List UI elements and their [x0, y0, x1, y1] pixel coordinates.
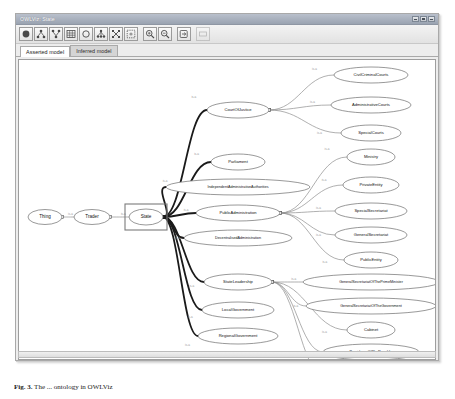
node-label: Trader	[85, 214, 99, 219]
node-label: PrivateEntity	[360, 182, 384, 187]
edge-courtofjustice-to-administrativecourts	[269, 105, 331, 110]
edge-label-is-a: is-a	[322, 178, 327, 182]
graph-node-decentralisedadministration[interactable]: DecentralisedAdministration	[184, 230, 292, 246]
graph-node-generalsecretariatoftheprimeminister[interactable]: GeneralSecretariatOfThePrimeMinister	[303, 274, 436, 290]
edge-courtofjustice-to-civilcriminalcourts	[269, 75, 334, 110]
show-ancestors-icon[interactable]	[34, 27, 48, 41]
graph-node-thing[interactable]: Thing	[28, 210, 62, 225]
node-label: Ministry	[364, 154, 379, 159]
toolbar	[16, 25, 438, 44]
zoom-out-icon[interactable]	[158, 27, 172, 41]
edge-state-to-localgovernment	[163, 217, 202, 310]
show-descendants-icon[interactable]	[49, 27, 63, 41]
edge-label-is-a: is-a	[185, 343, 190, 347]
node-label: StateLeadership	[223, 279, 254, 284]
tab-inferred-model[interactable]: Inferred model	[70, 45, 117, 56]
graph-node-independentadministrativeauthorities[interactable]: IndependentAdministrativeAuthorities	[166, 179, 310, 195]
node-label: CourtOfJustice	[224, 107, 252, 112]
node-label: RegionalGovernment	[219, 333, 259, 338]
graph-node-stateleadership[interactable]: StateLeadership	[204, 274, 272, 290]
node-label: CivilCriminalCourts	[354, 72, 389, 77]
edge-label-is-a: is-a	[188, 315, 193, 319]
options-icon[interactable]	[196, 27, 210, 41]
window-title: OWLViz: State	[18, 16, 55, 22]
grid-layout-icon[interactable]	[64, 27, 78, 41]
graph-node-state[interactable]: State	[125, 204, 167, 230]
node-label: Cabinet	[364, 327, 379, 332]
edge-state-to-stateleadership	[163, 217, 204, 282]
edge-label-is-a: is-a	[322, 260, 327, 264]
maximize-button[interactable]	[420, 16, 427, 22]
edge-label-is-a: is-a	[322, 330, 327, 334]
graph-node-generalsecretariatofthegovernment[interactable]: GeneralSecretariatOfTheGovernment	[306, 298, 436, 314]
edge-label-is-a: is-a	[293, 304, 298, 308]
edge-label-is-a: is-a	[317, 131, 322, 135]
node-label: GeneralSecretariatOfTheGovernment	[340, 304, 402, 308]
figure-number: Fig. 3.	[14, 383, 32, 391]
ontology-graph: is-ais-ais-ais-ais-ais-ais-ais-ais-ais-a…	[19, 60, 436, 359]
edge-label-is-a: is-a	[163, 179, 168, 183]
tab-asserted-model[interactable]: Asserted model	[20, 46, 70, 57]
edge-label-is-a: is-a	[324, 147, 329, 151]
edge-label-is-a: is-a	[310, 100, 315, 104]
export-icon[interactable]	[177, 27, 191, 41]
node-label: AdministrativeCourts	[352, 102, 390, 107]
edge-stateleadership-to-presidencyoftherepublic	[272, 282, 323, 352]
graph-nodes: ThingTraderStateCourtOfJusticeCivilCrimi…	[28, 67, 436, 359]
graph-node-publicadministration[interactable]: PublicAdministration	[196, 205, 280, 221]
node-label: Parliament	[228, 159, 248, 164]
figure-caption: Fig. 3. The ... ontology in OWLViz	[14, 383, 444, 392]
edge-label-is-a: is-a	[291, 277, 296, 281]
graph-node-ministry[interactable]: Ministry	[347, 149, 395, 165]
show-class-icon[interactable]	[79, 27, 93, 41]
edge-label-is-a: is-a	[68, 212, 73, 216]
owlviz-window: OWLViz: State	[15, 13, 439, 361]
edge-label-is-a: is-a	[316, 233, 321, 237]
graph-node-specialsecretariat[interactable]: SpecialSecretariat	[335, 203, 407, 219]
graph-node-generalsecretariat[interactable]: GeneralSecretariat	[335, 227, 407, 243]
graph-node-civilcriminalcourts[interactable]: CivilCriminalCourts	[334, 67, 408, 83]
node-label: PublicEntity	[360, 257, 382, 262]
status-bar	[18, 351, 436, 358]
window-controls	[412, 16, 436, 22]
node-label: LocalGovernment	[222, 307, 255, 312]
show-all-classes-icon[interactable]	[19, 27, 33, 41]
node-label: GeneralSecretariatOfThePrimeMinister	[339, 280, 404, 284]
graph-node-parliament[interactable]: Parliament	[211, 154, 265, 170]
radial-layout-icon[interactable]	[109, 27, 123, 41]
edge-label-is-a: is-a	[191, 95, 196, 99]
graph-node-cabinet[interactable]: Cabinet	[347, 322, 395, 338]
edge-publicadministration-to-generalsecretariat	[280, 213, 335, 235]
graph-canvas[interactable]: is-ais-ais-ais-ais-ais-ais-ais-ais-ais-a…	[18, 59, 436, 360]
edge-label-is-a: is-a	[175, 236, 180, 240]
window-titlebar[interactable]: OWLViz: State	[16, 14, 438, 25]
graph-node-administrativecourts[interactable]: AdministrativeCourts	[331, 97, 411, 113]
screenshot-root: OWLViz: State	[0, 0, 455, 399]
minimize-button[interactable]	[412, 16, 419, 22]
zoom-in-icon[interactable]	[143, 27, 157, 41]
edge-label-is-a: is-a	[184, 208, 189, 212]
node-label: PublicAdministration	[219, 210, 257, 215]
edge-courtofjustice-to-specialcourts	[269, 110, 341, 133]
node-label: IndependentAdministrativeAuthorities	[207, 185, 268, 189]
close-button[interactable]	[428, 16, 435, 22]
graph-node-courtofjustice[interactable]: CourtOfJustice	[207, 102, 269, 118]
node-label: State	[141, 214, 152, 219]
graph-node-specialcourts[interactable]: SpecialCourts	[341, 125, 401, 141]
node-label: DecentralisedAdministration	[215, 236, 261, 240]
edge-label-is-a: is-a	[194, 152, 199, 156]
figure-caption-text: The ... ontology in OWLViz	[34, 383, 112, 391]
graph-node-publicentity[interactable]: PublicEntity	[344, 252, 398, 268]
graph-node-trader[interactable]: Trader	[74, 210, 110, 225]
node-label: GeneralSecretariat	[354, 232, 389, 237]
edge-label-is-a: is-a	[316, 206, 321, 210]
edge-label-is-a: is-a	[312, 67, 317, 71]
node-label: SpecialSecretariat	[354, 208, 388, 213]
edge-label-is-a: is-a	[189, 284, 194, 288]
node-label: Thing	[39, 214, 51, 219]
tree-layout-icon[interactable]	[94, 27, 108, 41]
graph-node-privateentity[interactable]: PrivateEntity	[343, 177, 399, 193]
snapshot-icon[interactable]	[124, 27, 138, 41]
graph-node-localgovernment[interactable]: LocalGovernment	[202, 302, 274, 318]
graph-node-regionalgovernment[interactable]: RegionalGovernment	[198, 328, 278, 344]
